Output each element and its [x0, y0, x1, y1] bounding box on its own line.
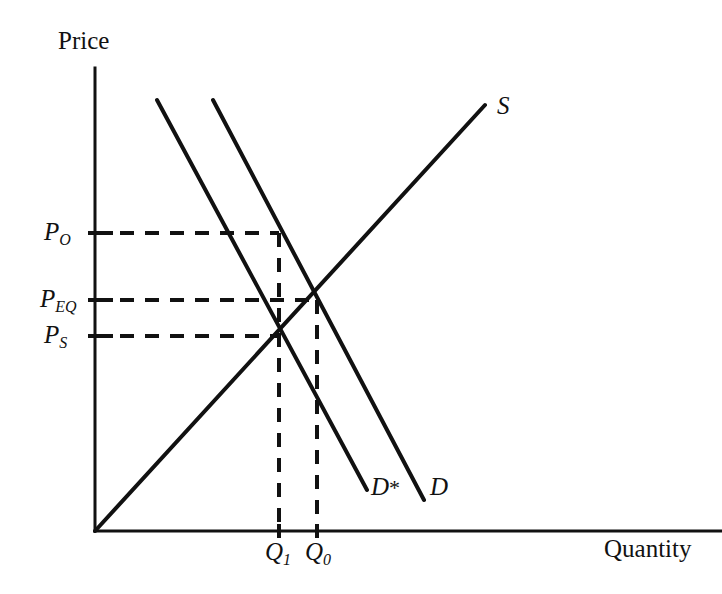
price-tick-subscript: EQ — [55, 298, 76, 315]
demand-curve — [213, 100, 424, 500]
quantity-tick-subscript: 1 — [283, 551, 291, 568]
asterisk-icon: * — [389, 475, 400, 500]
price-tick-subscript: O — [59, 231, 71, 248]
shifted-demand-label-base: D — [371, 473, 389, 500]
price-tick-base: P — [44, 321, 59, 348]
quantity-tick-base: Q — [305, 538, 323, 565]
shifted-demand-curve-label: D* — [371, 474, 400, 499]
quantity-tick-label-q1: Q1 — [265, 539, 291, 564]
supply-demand-figure: Price Quantity PO PEQ PS Q1 Q0 S D* D — [0, 0, 722, 594]
price-tick-subscript: S — [59, 334, 67, 351]
price-tick-base: P — [40, 285, 55, 312]
price-tick-label-peq: PEQ — [40, 286, 77, 311]
supply-curve-label: S — [497, 93, 510, 118]
quantity-tick-label-q0: Q0 — [305, 539, 331, 564]
demand-curve-label: D — [430, 474, 448, 499]
quantity-tick-subscript: 0 — [323, 551, 331, 568]
y-axis-title: Price — [58, 28, 109, 53]
quantity-tick-base: Q — [265, 538, 283, 565]
price-tick-base: P — [44, 218, 59, 245]
chart-canvas — [0, 0, 722, 594]
price-tick-label-ps: PS — [44, 322, 67, 347]
supply-curve — [95, 105, 485, 531]
x-axis-title: Quantity — [604, 536, 692, 561]
price-tick-label-po: PO — [44, 219, 71, 244]
